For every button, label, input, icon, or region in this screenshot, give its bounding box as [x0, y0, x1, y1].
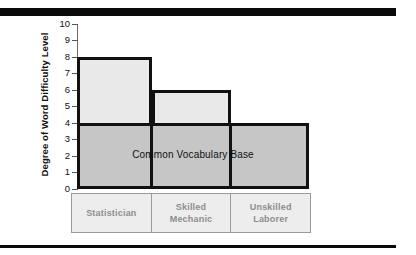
y-tick-label-4: 4 — [52, 118, 70, 128]
common-vocabulary-base-caption: Common Vocabulary Base — [77, 149, 309, 160]
plot-area: Common Vocabulary Base — [77, 20, 309, 192]
category-label-statistician-line-1: Statistician — [86, 207, 136, 219]
y-tick-label-3: 3 — [52, 134, 70, 144]
y-tick-label-8: 8 — [52, 52, 70, 62]
y-tick-label-2: 2 — [52, 151, 70, 161]
category-label-skilled-mechanic-line-2: Mechanic — [170, 214, 213, 224]
bar-upper-unskilled-laborer — [231, 123, 309, 126]
y-tick-label-7: 7 — [52, 68, 70, 78]
category-label-skilled-mechanic: Skilled Mechanic — [152, 194, 232, 232]
category-label-unskilled-laborer: Unskilled Laborer — [231, 194, 310, 232]
y-tick-label-6: 6 — [52, 85, 70, 95]
bottom-rule-decoration — [0, 245, 396, 248]
category-label-statistician: Statistician — [72, 194, 152, 232]
y-axis-label: Degree of Word Difficulty Level — [39, 15, 50, 195]
category-label-skilled-mechanic-line-1: Skilled — [176, 202, 206, 212]
y-tick-label-5: 5 — [52, 101, 70, 111]
category-label-unskilled-laborer-line-1: Unskilled — [250, 202, 292, 212]
category-label-row: Statistician Skilled Mechanic Unskilled … — [71, 193, 311, 233]
y-tick-label-0: 0 — [52, 184, 70, 194]
y-tick-label-10: 10 — [52, 19, 70, 29]
y-tick-label-1: 1 — [52, 167, 70, 177]
bar-upper-skilled-mechanic — [152, 90, 231, 124]
category-label-unskilled-laborer-text: Unskilled Laborer — [250, 201, 292, 225]
category-label-skilled-mechanic-text: Skilled Mechanic — [170, 201, 213, 225]
bar-upper-statistician — [77, 57, 152, 124]
category-label-unskilled-laborer-line-2: Laborer — [253, 214, 288, 224]
top-rule-decoration — [0, 8, 396, 16]
chart-figure: Degree of Word Difficulty Level 10 9 8 7… — [0, 0, 416, 255]
y-tick-label-9: 9 — [52, 35, 70, 45]
